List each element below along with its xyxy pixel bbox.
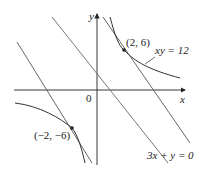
point-2-6 xyxy=(122,48,126,52)
curve-equation-label: xy = 12 xyxy=(155,45,189,56)
line-equation-label: 3x + y = 0 xyxy=(147,150,194,161)
curve-label-leader xyxy=(145,57,155,64)
x-axis-label: x xyxy=(180,94,185,105)
point-label-2-6: (2, 6) xyxy=(126,37,150,48)
point-label-neg2-neg6: (−2, −6) xyxy=(34,130,70,141)
tangent-line-left xyxy=(17,42,92,163)
origin-label: 0 xyxy=(86,93,92,104)
y-axis-label: y xyxy=(89,11,94,22)
point-neg2-neg6 xyxy=(70,126,74,130)
